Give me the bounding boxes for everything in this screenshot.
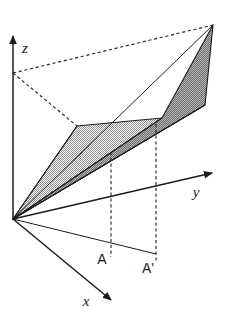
point-label-a: A xyxy=(97,251,107,267)
z-axis-label: z xyxy=(21,40,28,56)
dash-z-to-light-apex xyxy=(13,73,77,126)
point-label-a-prime: A' xyxy=(142,260,154,276)
dash-z-to-dark-apex xyxy=(13,25,213,73)
figure-root: z y x A A' xyxy=(0,0,230,317)
x-axis-label: x xyxy=(82,293,90,309)
axes-group xyxy=(13,36,212,300)
diagram-canvas: z y x A A' xyxy=(0,0,230,317)
ruling-to-dark-lower xyxy=(13,105,205,219)
ruling-to-dark-apex xyxy=(13,25,213,219)
y-axis-label: y xyxy=(191,184,200,200)
